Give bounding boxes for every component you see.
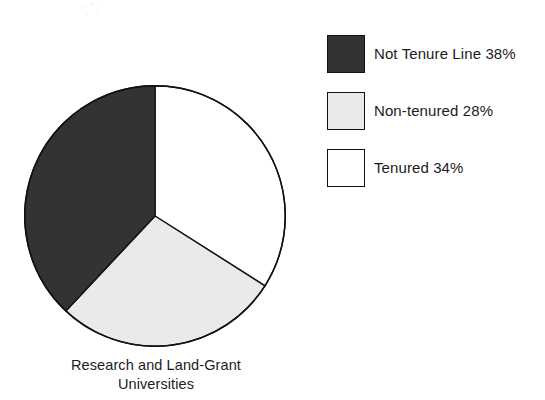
pie-caption-line-2: Universities xyxy=(12,375,300,394)
legend-item-not-tenure-line: Not Tenure Line 38% xyxy=(327,34,541,74)
chart-legend: Not Tenure Line 38% Non-tenured 28% Tenu… xyxy=(327,34,541,188)
pie-svg xyxy=(24,85,286,347)
legend-item-non-tenured: Non-tenured 28% xyxy=(327,91,541,131)
legend-label-non-tenured: Non-tenured 28% xyxy=(374,102,493,120)
legend-label-tenured: Tenured 34% xyxy=(374,159,464,177)
legend-swatch-non-tenured xyxy=(327,92,365,130)
legend-swatch-tenured xyxy=(327,149,365,187)
pie-chart-graphic xyxy=(24,85,286,347)
legend-item-tenured: Tenured 34% xyxy=(327,148,541,188)
legend-label-not-tenure-line: Not Tenure Line 38% xyxy=(374,45,516,63)
pie-caption-line-1: Research and Land-Grant xyxy=(12,356,300,375)
legend-swatch-not-tenure-line xyxy=(327,35,365,73)
pie-caption: Research and Land-Grant Universities xyxy=(12,356,300,394)
pie-slices-group xyxy=(25,86,285,346)
pie-chart-figure: Research and Land-Grant Universities Not… xyxy=(0,0,545,400)
scan-artifact-speck xyxy=(78,1,104,17)
